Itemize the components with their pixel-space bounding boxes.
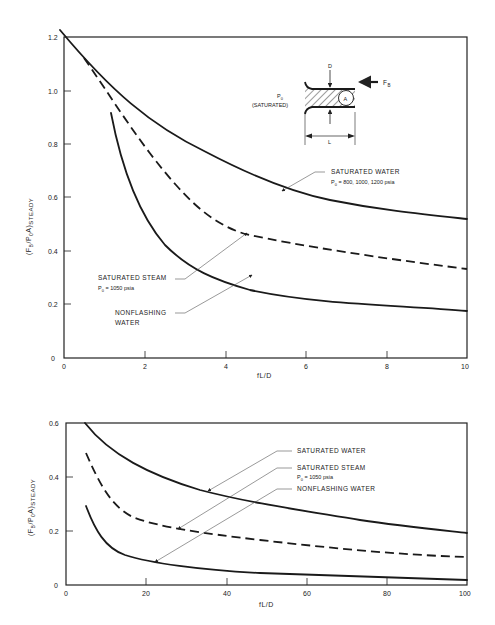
inset-label-l: L: [328, 139, 331, 145]
bottom-label-saturated-steam-pressure: P0 = 1050 psia: [297, 474, 334, 482]
top-curve-saturated-steam: [84, 58, 467, 269]
bottom-curve-saturated-water: [85, 423, 467, 533]
bottom-label-nonflashing: NONFLASHING WATER: [297, 485, 375, 492]
top-x-tick-8: 8: [385, 363, 389, 370]
top-y-tick-1.0: 1.0: [48, 88, 58, 95]
inset-label-a: A: [344, 96, 348, 102]
top-label-saturated-water-pressure: P0 = 800, 1000, 1200 psia: [331, 179, 395, 187]
bottom-x-axis-title: fL/D: [259, 601, 274, 608]
bottom-y-tick-0: 0: [54, 582, 58, 589]
bottom-x-tick-80: 80: [383, 590, 391, 597]
bottom-curve-nonflashing-water: [86, 506, 467, 580]
inset-label-d: D: [328, 63, 332, 69]
svg-text:(FB/P0A)STEADY: (FB/P0A)STEADY: [27, 479, 36, 536]
bottom-leader-nonflashing: [155, 489, 277, 562]
top-label-saturated-water: SATURATED WATER: [331, 168, 400, 175]
bottom-leader-saturated-water: [208, 451, 277, 491]
top-x-tick-0: 0: [62, 363, 66, 370]
top-label-nonflashing-1: NONFLASHING: [115, 309, 166, 316]
top-chart: 0 0.2 0.4 0.6 0.8 1.0 1.2 0 2 4 6 8 10 f…: [25, 30, 469, 379]
top-x-tick-2: 2: [143, 363, 147, 370]
top-y-tick-0: 0: [51, 355, 55, 362]
bottom-x-tick-40: 40: [223, 590, 231, 597]
bottom-x-tick-0: 0: [64, 590, 68, 597]
inset-label-p0: P0: [277, 93, 284, 101]
bottom-label-saturated-water: SATURATED WATER: [297, 447, 366, 454]
top-leader-saturated-steam: [185, 233, 247, 279]
inset-label-fb: FB: [383, 79, 391, 88]
top-y-tick-0.8: 0.8: [48, 141, 58, 148]
bottom-y-axis: 0 0.2 0.4 0.6: [49, 420, 73, 589]
pipe-inset-diagram: A D FB P0 (SATURATED) L: [252, 63, 391, 145]
bottom-x-tick-20: 20: [142, 590, 150, 597]
figure: 0 0.2 0.4 0.6 0.8 1.0 1.2 0 2 4 6 8 10 f…: [0, 0, 495, 625]
bottom-y-tick-0.4: 0.4: [49, 474, 59, 481]
top-y-axis-title: (FB/P0A)STEADY: [25, 198, 34, 255]
top-y-tick-0.2: 0.2: [48, 301, 58, 308]
bottom-y-axis-title: (FB/P0A)STEADY: [27, 479, 36, 536]
top-label-saturated-steam-pressure: P0 = 1050 psia: [98, 285, 135, 293]
top-leader-saturated-water: [282, 172, 315, 191]
svg-text:(FB/P0A)STEADY: (FB/P0A)STEADY: [25, 198, 34, 255]
bottom-leader-saturated-steam: [178, 468, 277, 529]
top-x-tick-10: 10: [461, 363, 469, 370]
top-x-axis-title: fL/D: [257, 372, 272, 379]
bottom-x-tick-100: 100: [459, 590, 471, 597]
bottom-y-tick-0.6: 0.6: [49, 420, 59, 427]
top-y-tick-1.2: 1.2: [48, 34, 58, 41]
top-y-tick-0.6: 0.6: [48, 194, 58, 201]
top-curve-saturated-water: [60, 30, 467, 219]
bottom-x-tick-60: 60: [303, 590, 311, 597]
top-y-tick-0.4: 0.4: [48, 248, 58, 255]
top-x-axis: 0 2 4 6 8 10 fL/D: [62, 351, 469, 379]
bottom-label-saturated-steam: SATURATED STEAM: [297, 464, 366, 471]
top-x-tick-6: 6: [304, 363, 308, 370]
top-x-tick-4: 4: [224, 363, 228, 370]
top-curve-nonflashing-water: [111, 113, 467, 311]
bottom-x-axis: 0 20 40 60 80 100 fL/D: [64, 578, 471, 608]
top-y-axis: 0 0.2 0.4 0.6 0.8 1.0 1.2: [48, 34, 71, 362]
top-label-saturated-steam: SATURATED STEAM: [98, 274, 167, 281]
top-leader-nonflashing: [185, 275, 252, 313]
bottom-y-tick-0.2: 0.2: [49, 528, 59, 535]
top-label-nonflashing-2: WATER: [115, 319, 140, 326]
inset-label-saturated: (SATURATED): [252, 102, 288, 108]
bottom-chart: 0 0.2 0.4 0.6 0 20 40 60 80 100 fL/D (FB…: [27, 420, 471, 608]
